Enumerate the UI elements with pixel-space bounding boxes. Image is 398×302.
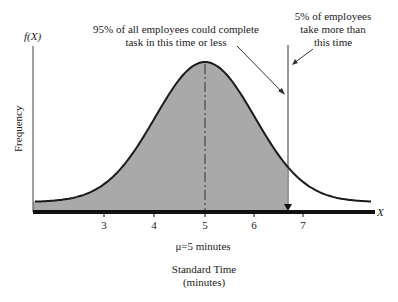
left-annotation-arrow	[237, 46, 283, 93]
shaded-area-95-percent	[33, 62, 287, 210]
mean-label: μ=5 minutes	[175, 240, 230, 253]
right-arrowhead	[292, 59, 298, 65]
x-axis-symbol: X	[377, 206, 384, 219]
annotation-5-line1: 5% of employees	[295, 10, 371, 23]
tick-label-5: 5	[202, 219, 208, 231]
annotation-5-line2: take more than	[300, 23, 365, 36]
right-annotation-arrow	[294, 49, 313, 63]
x-axis-title-line1: Standard Time	[172, 263, 236, 276]
annotation-95-line1: 95% of all employees could complete	[93, 23, 259, 36]
annotation-95-line2: task in this time or less	[125, 36, 226, 49]
tick-label-3: 3	[101, 219, 107, 231]
y-axis-symbol: f(X)	[24, 30, 41, 43]
tick-label-7: 7	[300, 219, 306, 231]
annotation-5-line3: this time	[314, 36, 352, 49]
y-axis-title: Frequency	[12, 106, 24, 152]
tick-label-4: 4	[151, 219, 157, 231]
x-axis-title-line2: (minutes)	[183, 276, 225, 289]
tick-label-6: 6	[251, 219, 257, 231]
